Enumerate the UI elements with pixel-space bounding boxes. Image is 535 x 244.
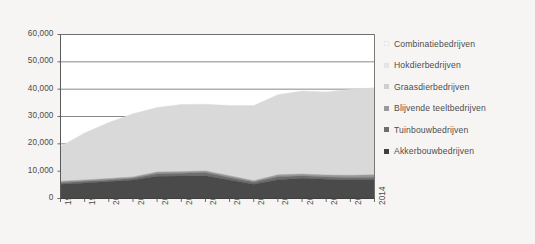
legend-label: Tuinbouwbedrijven xyxy=(394,125,468,135)
x-tick-label: 2001 xyxy=(137,186,146,205)
chart-legend: CombinatiebedrijvenHokdierbedrijvenGraas… xyxy=(384,33,534,162)
x-tick-label: 2013 xyxy=(354,186,363,205)
legend-label: Hokdierbedrijven xyxy=(394,60,461,70)
y-tick-label: 20,000 xyxy=(10,138,54,147)
y-tick-label: 30,000 xyxy=(10,111,54,120)
y-tick-label: 40,000 xyxy=(10,84,54,93)
chart-figure: 010,00020,00030,00040,00050,00060,000 19… xyxy=(0,0,535,244)
legend-swatch-icon xyxy=(384,41,389,46)
y-tick-label: 0 xyxy=(10,193,54,202)
y-tick-label: 50,000 xyxy=(10,56,54,65)
x-tick-label: 2009 xyxy=(257,186,266,205)
legend-swatch-icon xyxy=(384,127,389,132)
y-tick-label: 60,000 xyxy=(10,29,54,38)
x-tick-label: 2014 xyxy=(378,186,387,205)
legend-item: Akkerbouwbedrijven xyxy=(384,141,534,163)
x-tick-label: 2010 xyxy=(281,186,290,205)
x-tick-label: 2004 xyxy=(209,186,218,205)
legend-item: Hokdierbedrijven xyxy=(384,55,534,77)
x-tick-label: 2002 xyxy=(161,186,170,205)
legend-swatch-icon xyxy=(384,106,389,111)
legend-label: Graasdierbedrijven xyxy=(394,82,469,92)
legend-swatch-icon xyxy=(384,149,389,154)
legend-swatch-icon xyxy=(384,63,389,68)
x-tick-label: 2000 xyxy=(112,186,121,205)
legend-swatch-icon xyxy=(384,84,389,89)
x-tick-label: 1998 xyxy=(64,186,73,205)
x-tick-label: 2011 xyxy=(306,186,315,204)
x-tick-label: 1999 xyxy=(88,186,97,205)
legend-item: Combinatiebedrijven xyxy=(384,33,534,55)
legend-item: Tuinbouwbedrijven xyxy=(384,119,534,141)
legend-item: Blijvende teeltbedrijven xyxy=(384,98,534,120)
legend-label: Blijvende teeltbedrijven xyxy=(394,103,486,113)
x-tick-label: 2003 xyxy=(185,186,194,205)
x-tick-label: 2007 xyxy=(233,186,242,205)
legend-label: Akkerbouwbedrijven xyxy=(394,146,474,156)
y-tick-label: 10,000 xyxy=(10,166,54,175)
legend-item: Graasdierbedrijven xyxy=(384,76,534,98)
legend-label: Combinatiebedrijven xyxy=(394,39,475,49)
x-tick-label: 2012 xyxy=(330,186,339,205)
